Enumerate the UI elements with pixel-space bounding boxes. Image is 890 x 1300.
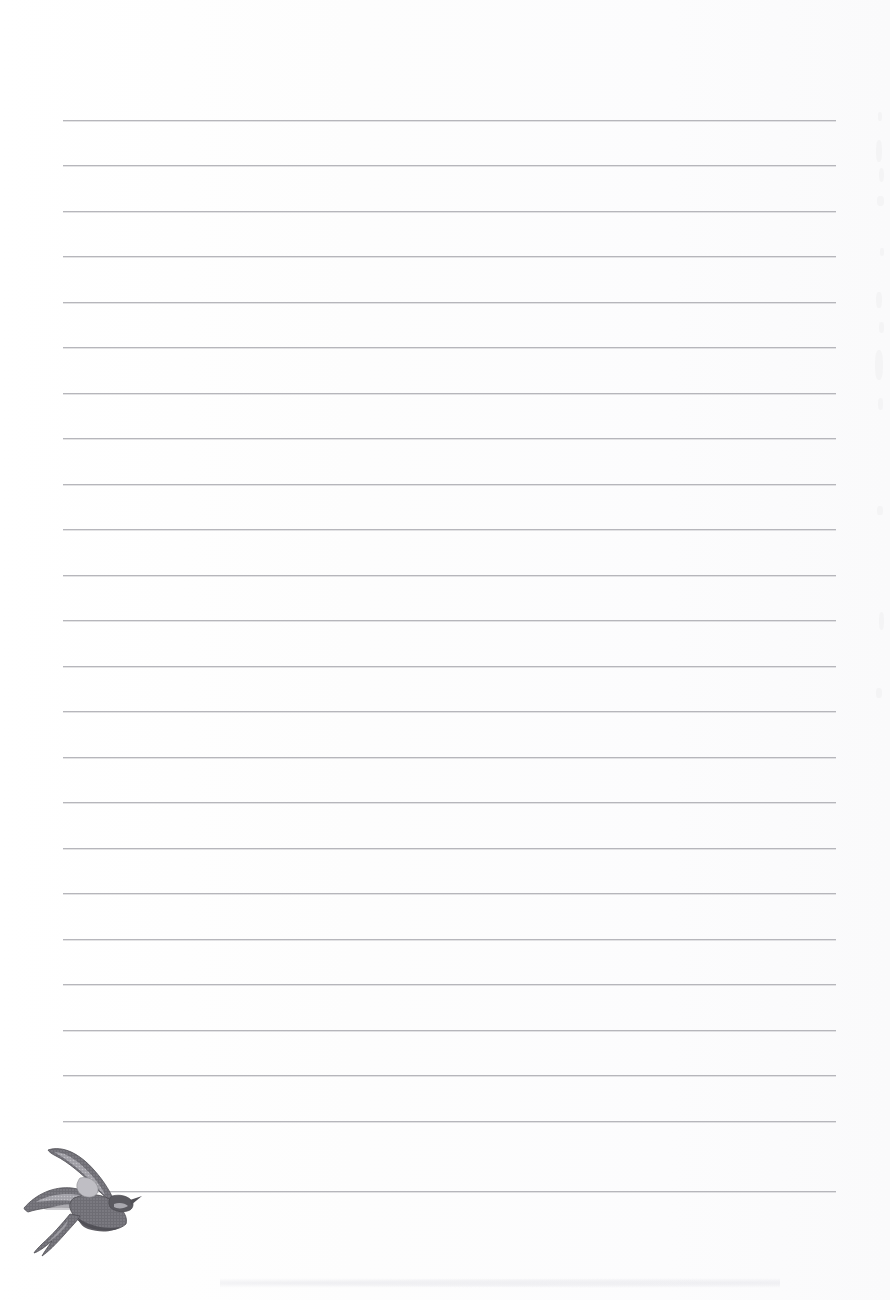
rule-line	[63, 666, 836, 667]
rule-line	[63, 1121, 836, 1122]
rule-line	[63, 165, 836, 166]
bird-beak	[130, 1196, 142, 1205]
rule-line	[63, 484, 836, 485]
rule-line	[63, 347, 836, 348]
rule-line	[63, 438, 836, 439]
rule-line	[63, 1075, 836, 1076]
rule-line	[63, 256, 836, 257]
rule-line	[63, 757, 836, 758]
rule-line	[63, 393, 836, 394]
rule-line	[63, 620, 836, 621]
rule-line	[63, 939, 836, 940]
notepaper-page	[0, 0, 890, 1300]
bird-body-group	[24, 1149, 142, 1256]
rule-line	[63, 211, 836, 212]
rule-line	[63, 575, 836, 576]
rule-line	[63, 984, 836, 985]
rule-line	[63, 120, 836, 121]
rule-line	[63, 802, 836, 803]
rule-line	[63, 848, 836, 849]
swift-bird-illustration	[18, 1132, 144, 1258]
rule-line	[63, 1191, 836, 1192]
rule-line	[63, 302, 836, 303]
rule-line	[63, 529, 836, 530]
ruled-lines-group	[0, 0, 890, 1300]
rule-line	[63, 711, 836, 712]
rule-line	[63, 893, 836, 894]
rule-line	[63, 1030, 836, 1031]
